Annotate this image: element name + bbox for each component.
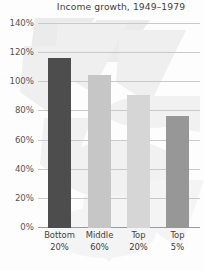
gridline-120: 120%: [38, 52, 200, 53]
chart-title: Income growth, 1949–1979: [38, 1, 204, 13]
ytick-label-120: 120%: [9, 48, 34, 57]
bar-bottom-20[interactable]: [48, 58, 71, 228]
ytick-label-40: 40%: [15, 164, 34, 173]
xlabel-line1: Top: [154, 230, 201, 242]
bar-top-5[interactable]: [166, 116, 189, 228]
gridline-140: 140%: [38, 23, 200, 24]
income-growth-bar-chart: Income growth, 1949–1979 140% 120% 100% …: [0, 0, 204, 271]
bar-top-20[interactable]: [127, 95, 150, 228]
ytick-label-80: 80%: [15, 106, 34, 115]
ytick-label-100: 100%: [9, 77, 34, 86]
ytick-label-0: 0%: [20, 223, 34, 232]
ytick-label-140: 140%: [9, 19, 34, 28]
ytick-label-20: 20%: [15, 193, 34, 202]
plot-area: 140% 120% 100% 80% 60% 40% 20% 0% Bottom: [38, 24, 200, 228]
xlabel-line2: 5%: [154, 242, 201, 254]
ytick-label-60: 60%: [15, 135, 34, 144]
bar-middle-60[interactable]: [88, 75, 111, 228]
xlabel-top-5: Top 5%: [154, 230, 201, 253]
